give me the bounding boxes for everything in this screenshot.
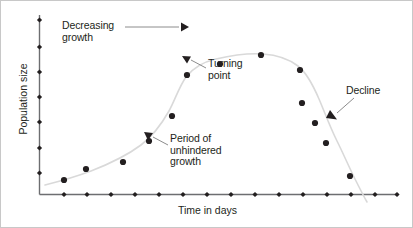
annotation-leader-decline xyxy=(326,98,354,120)
data-point xyxy=(184,72,190,78)
annotation-period-unhindered-growth: Period of unhindered growth xyxy=(170,133,222,168)
x-axis-label: Time in days xyxy=(1,204,413,216)
x-axis-ticks xyxy=(61,192,399,197)
data-point xyxy=(83,166,89,172)
data-point xyxy=(299,100,305,106)
annotation-decreasing-growth: Decreasing growth xyxy=(62,20,114,43)
arrowhead-up-icon xyxy=(326,110,337,120)
arrowhead-right-icon xyxy=(181,23,189,32)
annotation-leader-turning-point xyxy=(182,56,206,68)
data-point xyxy=(61,177,67,183)
data-point xyxy=(258,52,264,58)
arrowhead-left-icon xyxy=(182,56,191,64)
data-point xyxy=(312,120,318,126)
data-curve xyxy=(45,54,367,202)
annotation-leader-decreasing-growth xyxy=(125,23,189,32)
data-point xyxy=(169,113,175,119)
annotation-turning-point: Turning point xyxy=(208,58,243,81)
y-axis-label: Population size xyxy=(17,39,29,159)
data-point xyxy=(120,159,126,165)
data-point xyxy=(323,140,329,146)
annotation-decline: Decline xyxy=(346,85,380,97)
data-point xyxy=(347,173,353,179)
data-point xyxy=(297,67,303,73)
population-growth-chart: Decreasing growth Turning point Period o… xyxy=(0,0,413,228)
